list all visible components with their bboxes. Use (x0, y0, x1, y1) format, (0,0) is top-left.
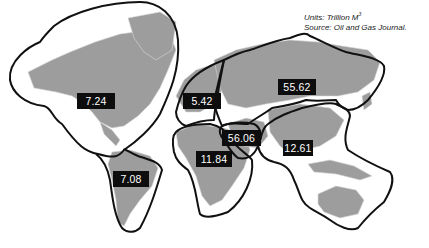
units-label: Units: Trillion M3 (304, 9, 407, 23)
value-label-south-america: 7.08 (113, 171, 149, 187)
world-map (0, 0, 429, 248)
value-label-north-america: 7.24 (77, 93, 115, 109)
source-label: Source: Oil and Gas Journal. (304, 23, 407, 33)
value-label-asia-pacific: 12.61 (283, 140, 313, 156)
value-label-europe: 5.42 (183, 93, 221, 109)
value-label-fsu: 55.62 (278, 79, 316, 95)
map-legend-note: Units: Trillion M3 Source: Oil and Gas J… (304, 9, 407, 33)
value-label-africa: 11.84 (196, 151, 232, 167)
value-label-middle-east: 56.06 (222, 130, 261, 146)
